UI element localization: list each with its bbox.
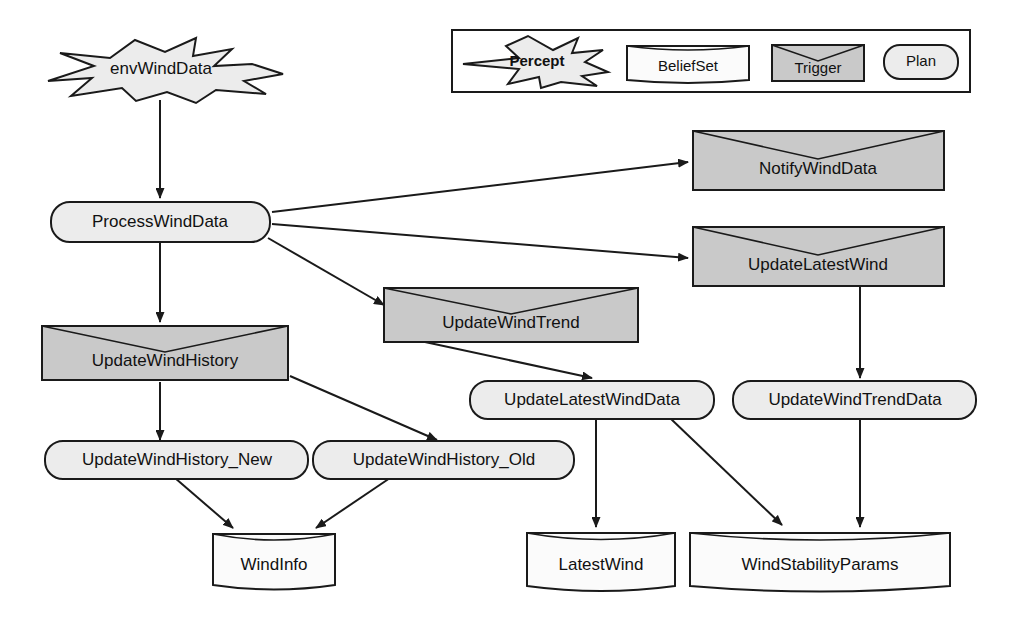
- node-label-updatelatestwinddata: UpdateLatestWindData: [504, 390, 680, 409]
- bdi-agent-diagram: Percept BeliefSet Trigger Plan: [0, 0, 1013, 641]
- legend-label-percept: Percept: [509, 52, 564, 69]
- node-windstabilityparams[interactable]: WindStabilityParams: [690, 533, 950, 592]
- edge-UpdateWindTrend-to-UpdateLatestWindData: [425, 342, 592, 378]
- node-updatewindtrenddata[interactable]: UpdateWindTrendData: [733, 381, 976, 419]
- node-label-envwinddata: envWindData: [110, 59, 213, 78]
- node-label-updatewindhistory-new: UpdateWindHistory_New: [82, 450, 273, 469]
- legend-label-trigger: Trigger: [795, 59, 842, 76]
- node-label-latestwind: LatestWind: [558, 555, 643, 574]
- node-label-updatewindhistory-old: UpdateWindHistory_Old: [353, 450, 535, 469]
- node-envwinddata[interactable]: envWindData: [48, 38, 283, 103]
- node-updatewindhistory-new[interactable]: UpdateWindHistory_New: [45, 441, 308, 479]
- legend: Percept BeliefSet Trigger Plan: [452, 30, 970, 92]
- edge-ProcessWindData-to-UpdateWindTrend: [268, 238, 384, 305]
- node-processwinddata[interactable]: ProcessWindData: [51, 202, 270, 242]
- legend-label-beliefset: BeliefSet: [658, 57, 719, 74]
- legend-item-trigger: Trigger: [772, 45, 864, 81]
- node-updatewindhistory-old[interactable]: UpdateWindHistory_Old: [313, 441, 574, 479]
- node-label-windinfo: WindInfo: [240, 555, 307, 574]
- node-updatelatestwinddata[interactable]: UpdateLatestWindData: [470, 381, 714, 419]
- node-label-processwinddata: ProcessWindData: [92, 212, 229, 231]
- edge-ProcessWindData-to-NotifyWindData: [272, 162, 688, 212]
- legend-item-plan: Plan: [884, 45, 958, 79]
- node-latestwind[interactable]: LatestWind: [527, 533, 675, 591]
- node-windinfo[interactable]: WindInfo: [213, 534, 335, 590]
- node-label-updatewindhistory: UpdateWindHistory: [92, 351, 239, 370]
- edge-ProcessWindData-to-UpdateLatestWind: [272, 224, 688, 258]
- node-updatelatestwind[interactable]: UpdateLatestWind: [693, 227, 944, 286]
- node-label-updatelatestwind: UpdateLatestWind: [748, 255, 888, 274]
- node-label-notifywinddata: NotifyWindData: [759, 159, 878, 178]
- legend-item-beliefset: BeliefSet: [627, 46, 749, 83]
- legend-label-plan: Plan: [906, 52, 936, 69]
- node-label-updatewindtrenddata: UpdateWindTrendData: [768, 390, 942, 409]
- node-notifywinddata[interactable]: NotifyWindData: [693, 131, 944, 190]
- node-updatewindtrend[interactable]: UpdateWindTrend: [384, 288, 638, 342]
- edge-UpdateWindHistory_New-to-WindInfo: [175, 478, 233, 528]
- node-label-updatewindtrend: UpdateWindTrend: [442, 313, 579, 332]
- edge-UpdateWindHistory_Old-to-WindInfo: [316, 478, 390, 528]
- diagram-canvas: Percept BeliefSet Trigger Plan: [0, 0, 1013, 641]
- node-label-windstabilityparams: WindStabilityParams: [742, 555, 899, 574]
- edge-UpdateLatestWindData-to-WindStabilityParams: [670, 418, 782, 525]
- edge-UpdateWindHistory-to-UpdateWindHistory_Old: [290, 376, 437, 440]
- node-updatewindhistory[interactable]: UpdateWindHistory: [42, 326, 288, 380]
